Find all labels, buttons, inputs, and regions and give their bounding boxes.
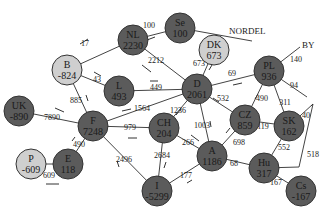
node-label: NL bbox=[126, 29, 139, 40]
region-label-nordel: NORDEL bbox=[229, 26, 266, 36]
node-value: -5299 bbox=[145, 191, 168, 202]
node-cs: Cs-167 bbox=[286, 176, 316, 206]
node-label: CH bbox=[157, 117, 171, 128]
node-label: L bbox=[116, 80, 122, 91]
node-label: F bbox=[90, 115, 96, 126]
node-label: Se bbox=[175, 17, 186, 28]
edge-flow-label: 552 bbox=[278, 143, 290, 152]
node-label: CZ bbox=[239, 109, 252, 120]
edge-flow-label: 2212 bbox=[148, 56, 164, 65]
edge-flow-label: 532 bbox=[217, 94, 229, 103]
node-value: -167 bbox=[292, 191, 310, 202]
node-value: 1186 bbox=[202, 156, 222, 167]
node-label: PL bbox=[263, 60, 275, 71]
node-value: 162 bbox=[282, 126, 297, 137]
node-label: UK bbox=[12, 100, 27, 111]
node-nl: NL2230 bbox=[118, 25, 148, 55]
edge-flow-label: 2684 bbox=[154, 151, 170, 160]
edge-flow-label: 100 bbox=[143, 21, 155, 30]
node-d: D2061 bbox=[182, 74, 212, 104]
edge-flow-label: 979 bbox=[124, 123, 136, 132]
node-dk: DK673 bbox=[199, 35, 229, 65]
node-b: B-824 bbox=[52, 55, 82, 85]
node-value: 204 bbox=[157, 128, 172, 139]
node-sk: SK162 bbox=[274, 111, 304, 141]
node-label: Cs bbox=[296, 180, 307, 191]
node-value: 317 bbox=[257, 168, 272, 179]
node-i: I-5299 bbox=[142, 176, 172, 206]
node-value: 118 bbox=[61, 164, 76, 175]
node-e: E118 bbox=[53, 149, 83, 179]
edge-flow-label: 1003 bbox=[194, 121, 210, 130]
node-value: 673 bbox=[207, 50, 222, 61]
node-value: -609 bbox=[22, 164, 40, 175]
edge-flow-label: 1236 bbox=[170, 106, 186, 115]
node-value: 2061 bbox=[187, 89, 207, 100]
node-uk: UK-890 bbox=[4, 96, 34, 126]
edge-flow-label: 69 bbox=[228, 69, 236, 78]
edge-flow-label: 7890 bbox=[44, 113, 60, 122]
edge-flow-label: 177 bbox=[180, 171, 192, 180]
node-value: 100 bbox=[173, 28, 188, 39]
region-labels: NORDEL BY bbox=[229, 26, 315, 50]
edge-flow-label: 490 bbox=[73, 140, 85, 149]
node-value: 859 bbox=[238, 120, 253, 131]
node-value: 493 bbox=[112, 91, 127, 102]
edge-flow-label: 609 bbox=[43, 171, 55, 180]
node-cz: CZ859 bbox=[230, 105, 260, 135]
region-label-by: BY bbox=[302, 40, 315, 50]
node-label: DK bbox=[207, 39, 222, 50]
node-f: F7248 bbox=[78, 111, 108, 141]
node-pl: PL936 bbox=[254, 56, 284, 86]
edge-flow-label: 140 bbox=[290, 55, 302, 64]
node-label: B bbox=[64, 59, 71, 70]
edge-flow-label: 518 bbox=[307, 150, 319, 159]
edge-flow-label: 449 bbox=[150, 83, 162, 92]
node-label: E bbox=[65, 153, 71, 164]
edge-flow-label: 885 bbox=[70, 96, 82, 105]
network-diagram: NORDEL BY 171002212434498857890156497949… bbox=[0, 0, 331, 222]
edge-flow-label: 698 bbox=[233, 138, 245, 147]
edge-flow-label: 266 bbox=[182, 138, 194, 147]
node-se: Se100 bbox=[165, 13, 195, 43]
node-label: I bbox=[155, 180, 158, 191]
edge-flow-label: 2496 bbox=[116, 155, 132, 164]
edge-flow-label: 490 bbox=[256, 94, 268, 103]
node-ch: CH204 bbox=[149, 113, 179, 143]
edge-flow-label: 43 bbox=[93, 75, 101, 84]
node-value: -824 bbox=[58, 70, 76, 81]
edge-flow-label: 311 bbox=[279, 98, 291, 107]
node-label: D bbox=[193, 78, 200, 89]
edge-flow-label: 40 bbox=[302, 111, 310, 120]
edge-flow-label: 1564 bbox=[134, 104, 150, 113]
node-hu: Hu317 bbox=[249, 153, 279, 183]
node-label: SK bbox=[283, 115, 297, 126]
edge-flow-label: 17 bbox=[81, 39, 89, 48]
node-label: A bbox=[208, 145, 216, 156]
edge-flow-label: 68 bbox=[230, 159, 238, 168]
node-label: Hu bbox=[258, 157, 270, 168]
node-value: 7248 bbox=[83, 126, 103, 137]
node-value: 936 bbox=[262, 71, 277, 82]
edge-flow-label: 94 bbox=[290, 81, 298, 90]
node-l: L493 bbox=[104, 76, 134, 106]
node-a: A1186 bbox=[197, 141, 227, 171]
node-value: 2230 bbox=[123, 40, 143, 51]
node-p: P-609 bbox=[16, 149, 46, 179]
node-label: P bbox=[28, 153, 34, 164]
node-value: -890 bbox=[10, 111, 28, 122]
